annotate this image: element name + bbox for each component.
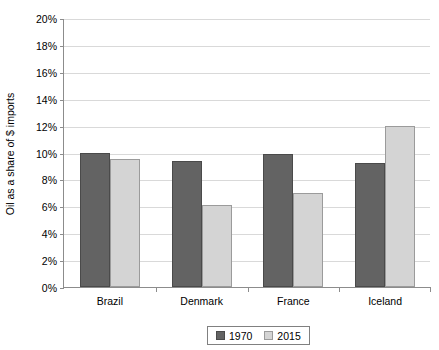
gridline <box>64 100 430 101</box>
y-tick-label: 8% <box>42 175 57 186</box>
legend-entry-2015: 2015 <box>264 330 300 342</box>
y-tick-mark <box>60 207 64 208</box>
y-tick-label: 12% <box>36 121 57 132</box>
y-tick-label: 20% <box>36 14 57 25</box>
x-tick-mark <box>430 287 431 292</box>
y-tick-mark <box>60 180 64 181</box>
y-tick-label: 2% <box>42 256 57 267</box>
y-tick-mark <box>60 19 64 20</box>
gridline <box>64 46 430 47</box>
y-tick-label: 18% <box>36 40 57 51</box>
y-axis-title: Oil as a share of $ imports <box>3 9 17 299</box>
x-tick-label-brazil: Brazil <box>97 295 123 307</box>
legend-entry-1970: 1970 <box>216 330 252 342</box>
bar-denmark-1970 <box>172 161 202 287</box>
y-tick-mark <box>60 127 64 128</box>
y-tick-mark <box>60 100 64 101</box>
x-tick-label-iceland: Iceland <box>368 295 402 307</box>
bar-france-2015 <box>293 193 323 287</box>
y-tick-mark <box>60 73 64 74</box>
y-tick-label: 10% <box>36 148 57 159</box>
y-tick-label: 0% <box>42 283 57 294</box>
y-tick-mark <box>60 234 64 235</box>
y-tick-mark <box>60 46 64 47</box>
y-tick-label: 14% <box>36 94 57 105</box>
y-tick-label: 6% <box>42 202 57 213</box>
legend-label: 1970 <box>229 330 252 342</box>
bar-denmark-2015 <box>202 205 232 287</box>
y-tick-mark <box>60 154 64 155</box>
x-tick-mark <box>248 287 249 292</box>
y-tick-label: 16% <box>36 67 57 78</box>
chart-legend: 19702015 <box>207 326 310 345</box>
y-tick-mark <box>60 261 64 262</box>
bar-france-1970 <box>263 154 293 287</box>
y-tick-mark <box>60 288 64 289</box>
bar-brazil-1970 <box>80 153 110 288</box>
gridline <box>64 73 430 74</box>
x-tick-mark <box>156 287 157 292</box>
x-tick-label-france: France <box>277 295 310 307</box>
gridline <box>64 154 430 155</box>
gridline <box>64 127 430 128</box>
bar-brazil-2015 <box>110 159 140 287</box>
bar-iceland-2015 <box>385 126 415 287</box>
x-tick-mark <box>339 287 340 292</box>
legend-swatch-icon <box>216 331 225 340</box>
x-tick-label-denmark: Denmark <box>180 295 223 307</box>
legend-swatch-icon <box>264 331 273 340</box>
legend-label: 2015 <box>277 330 300 342</box>
bar-iceland-1970 <box>355 163 385 287</box>
y-tick-label: 4% <box>42 229 57 240</box>
bar-chart: Oil as a share of $ imports 0%2%4%6%8%10… <box>0 0 439 350</box>
gridline <box>64 19 430 20</box>
plot-area: 0%2%4%6%8%10%12%14%16%18%20% BrazilDenma… <box>63 19 430 288</box>
